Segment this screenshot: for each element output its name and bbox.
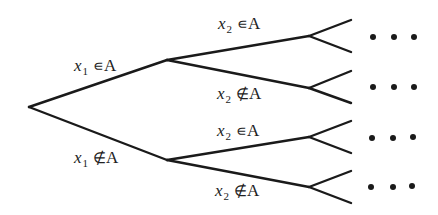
edge-leaf — [309, 171, 351, 187]
edge-leaf — [309, 20, 351, 36]
label-x2-in-lower: x2∊A — [217, 122, 259, 142]
edge-leaf — [309, 36, 351, 52]
ellipsis-row-3 — [369, 134, 416, 141]
edge-leaf — [309, 137, 351, 153]
ellipsis-row-4 — [368, 183, 415, 190]
label-x2-in-upper: x2∊A — [218, 15, 260, 35]
label-x1-in: x1∊A — [74, 57, 116, 77]
edge-x1in-x2-notin — [167, 60, 309, 88]
edge-leaf — [309, 121, 351, 137]
ellipsis-row-2 — [370, 84, 417, 90]
label-x2-notin-lower: x2∉A — [215, 182, 259, 202]
edge-leaf — [309, 88, 351, 103]
label-x1-notin: x1∉A — [74, 149, 118, 169]
edge-leaf — [309, 71, 351, 88]
label-x2-notin-upper: x2∉A — [217, 85, 261, 105]
ellipsis-row-1 — [370, 34, 417, 40]
edge-leaf — [309, 187, 351, 203]
edge-x1in-x2-in — [167, 36, 309, 60]
